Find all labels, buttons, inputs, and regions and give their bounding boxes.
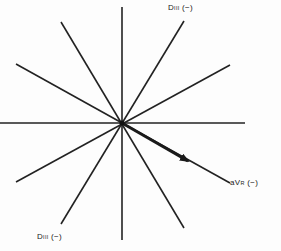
label-sign: (−) [182, 3, 193, 12]
label-lead-sub: III [43, 234, 48, 240]
label-sign: (−) [247, 178, 258, 187]
hexaxial-diagram: DIII (−) aVR (−) DIII (−) [0, 0, 281, 251]
label-lead-name: aV [230, 178, 240, 187]
label-sign: (−) [51, 232, 62, 241]
center-point [120, 121, 125, 126]
label-avr-negative: aVR (−) [230, 178, 258, 187]
label-diii-negative-top: DIII (−) [168, 3, 193, 12]
label-diii-negative-bottom: DIII (−) [37, 232, 62, 241]
label-lead-sub: R [240, 180, 244, 186]
axis-diagram-svg [0, 0, 281, 251]
label-lead-sub: III [174, 5, 179, 11]
